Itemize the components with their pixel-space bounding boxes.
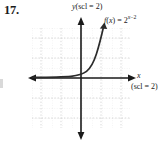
graph-canvas (0, 0, 167, 145)
y-axis-label-scale: (scl = 2) (76, 2, 103, 11)
x-axis-right-arrowhead (128, 75, 136, 82)
x-axis-label: x (137, 72, 141, 80)
y-axis-top-arrowhead (78, 17, 85, 25)
x-axis-scale-label: (scl = 2) (131, 83, 158, 91)
function-equation-label: f(x) = 2x−2 (104, 15, 136, 25)
function-exponent-number: 2 (134, 14, 137, 20)
function-paren-close: ) (112, 16, 115, 25)
x-axis-scale-text: (scl = 2) (131, 82, 158, 91)
function-equals-sign: = (117, 16, 122, 25)
exercise-figure: 17. (0, 0, 167, 145)
x-axis-label-variable: x (137, 71, 141, 80)
function-exponent: x−2 (128, 14, 137, 20)
y-axis-bottom-arrowhead (78, 132, 85, 140)
y-axis-label: y(scl = 2) (72, 3, 102, 11)
